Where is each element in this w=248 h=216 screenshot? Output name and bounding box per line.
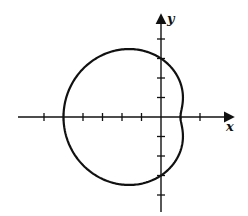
limacon-diagram: x y [0,0,248,216]
x-axis-label: x [225,119,234,134]
y-axis-label: y [166,11,176,26]
